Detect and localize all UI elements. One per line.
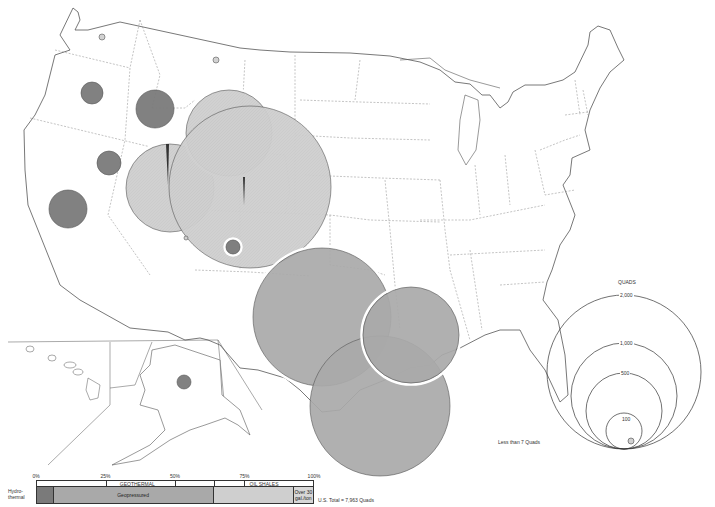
legend-label-500: 500 — [620, 370, 630, 376]
legend-title: QUADS — [618, 279, 636, 285]
new-mexico-hydrothermal-circle — [226, 240, 240, 254]
segment-hydrothermal — [37, 487, 54, 503]
segment-row: Geopressured Over 30 gal./ton — [36, 486, 314, 504]
segment-over-30: Over 30 gal./ton — [294, 487, 313, 503]
montana-small-circle — [213, 57, 219, 63]
segment-oil-shale — [214, 487, 294, 503]
us-total-label: U.S. Total = 7,963 Quads — [318, 497, 374, 503]
oregon-hydrothermal-circle — [81, 82, 103, 104]
california-hydrothermal-circle — [49, 190, 87, 228]
idaho-hydrothermal-circle — [136, 90, 174, 128]
resource-share-bar: 0% 25% 50% 75% 100% GEOTHERMAL OIL SHALE… — [36, 473, 314, 504]
louisiana-geopressured-circle — [363, 287, 459, 383]
hawaii-islands — [26, 346, 100, 400]
category-geothermal: GEOTHERMAL — [120, 481, 155, 487]
arizona-small-circle — [184, 236, 188, 240]
nevada-hydrothermal-circle — [97, 151, 121, 175]
segment-geopressured: Geopressured — [54, 487, 214, 503]
scale-25: 25% — [100, 473, 110, 479]
category-row: GEOTHERMAL OIL SHALES — [36, 480, 314, 486]
percent-scale: 0% 25% 50% 75% 100% — [36, 473, 314, 480]
legend-label-2000: 2,000 — [619, 292, 634, 298]
category-oil-shales: OIL SHALES — [250, 481, 279, 487]
hydrothermal-label: Hydro- thermal — [8, 488, 25, 500]
legend-label-100: 100 — [621, 416, 631, 422]
alaska-outline — [112, 345, 250, 465]
scale-0: 0% — [32, 473, 39, 479]
us-energy-resource-map — [0, 0, 715, 507]
small-quads-icon — [628, 438, 634, 444]
scale-50: 50% — [170, 473, 180, 479]
scale-100: 100% — [308, 473, 321, 479]
washington-small-circle — [99, 34, 105, 40]
scale-75: 75% — [239, 473, 249, 479]
alaska-hydrothermal-circle — [177, 375, 191, 389]
legend-label-1000: 1,000 — [619, 340, 634, 346]
legend-small-label: Less than 7 Quads — [498, 439, 540, 445]
colorado-oil-shale-circle — [169, 106, 331, 268]
